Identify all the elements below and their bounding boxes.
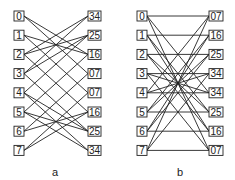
right-node-label: 34 — [89, 145, 101, 156]
right-node-label: 16 — [89, 49, 101, 60]
right-node-label: 07 — [210, 11, 222, 22]
left-node-label: 0 — [16, 11, 22, 22]
diagram-a: 012345673425160707162534 — [14, 11, 101, 156]
right-node-label: 25 — [89, 30, 101, 41]
right-node-label: 25 — [210, 107, 222, 118]
right-node-label: 34 — [210, 68, 222, 79]
left-node-label: 7 — [139, 145, 145, 156]
left-node-label: 4 — [139, 87, 145, 98]
left-node-label: 2 — [16, 49, 22, 60]
right-node-label: 07 — [89, 68, 101, 79]
left-node-label: 7 — [16, 145, 22, 156]
connection-line — [24, 93, 88, 131]
right-node-label: 16 — [210, 30, 222, 41]
left-node-label: 0 — [139, 11, 145, 22]
connection-line — [24, 35, 88, 73]
left-node-label: 1 — [139, 30, 145, 41]
left-node-label: 4 — [16, 87, 22, 98]
caption-b: b — [177, 166, 183, 178]
network-diagrams: 012345673425160707162534 012345670716253… — [0, 0, 235, 180]
left-node-label: 2 — [139, 49, 145, 60]
right-node-label: 07 — [210, 145, 222, 156]
right-node-label: 25 — [210, 49, 222, 60]
right-node-label: 34 — [210, 87, 222, 98]
right-node-label: 16 — [210, 126, 222, 137]
left-node-label: 5 — [139, 107, 145, 118]
right-node-label: 16 — [89, 107, 101, 118]
right-node-label: 07 — [89, 87, 101, 98]
right-node-label: 25 — [89, 126, 101, 137]
left-node-label: 6 — [139, 126, 145, 137]
caption-a: a — [52, 166, 59, 178]
left-node-label: 3 — [139, 68, 145, 79]
diagram-b: 012345670716253434251607 — [137, 11, 223, 156]
left-node-label: 1 — [16, 30, 22, 41]
right-node-label: 34 — [89, 11, 101, 22]
left-node-label: 5 — [16, 107, 22, 118]
left-node-label: 3 — [16, 68, 22, 79]
left-node-label: 6 — [16, 126, 22, 137]
